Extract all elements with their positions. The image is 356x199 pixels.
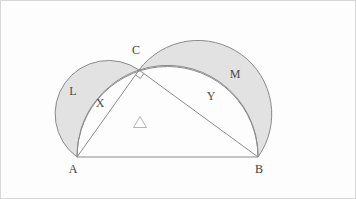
label-segment-left: X [96, 96, 105, 110]
vertex-label-b: B [255, 162, 263, 176]
vertex-label-c: C [132, 43, 140, 57]
right-angle-marker [136, 74, 144, 79]
lune-right-region [139, 40, 272, 157]
triangle-glyph [134, 116, 147, 127]
label-segment-right: Y [207, 89, 216, 103]
vertex-label-a: A [69, 162, 78, 176]
diagram-canvas: L X M Y A B C [0, 0, 356, 199]
lunes-figure: L X M Y A B C [0, 0, 356, 199]
label-lune-right: M [230, 67, 241, 81]
label-lune-left: L [69, 84, 76, 98]
figure-frame [1, 1, 356, 199]
